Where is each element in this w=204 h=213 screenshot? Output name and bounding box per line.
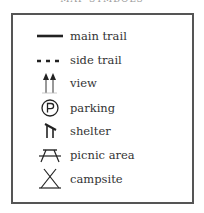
legend-item-main-trail: main trail — [13, 25, 192, 47]
legend-label: shelter — [70, 120, 111, 142]
parking-icon — [35, 97, 65, 119]
map-legend: main trail side trail view parking — [11, 13, 194, 204]
main-trail-icon — [35, 25, 65, 47]
legend-label: main trail — [70, 25, 127, 47]
legend-item-picnic-area: picnic area — [13, 144, 192, 166]
shelter-icon — [35, 120, 65, 142]
view-icon — [35, 72, 65, 94]
legend-item-shelter: shelter — [13, 120, 192, 142]
legend-label: campsite — [70, 168, 123, 190]
legend-label: picnic area — [70, 144, 135, 166]
legend-item-side-trail: side trail — [13, 49, 192, 71]
side-trail-icon — [35, 49, 65, 71]
legend-title: MAP SYMBOLS — [0, 0, 204, 4]
legend-item-campsite: campsite — [13, 168, 192, 190]
legend-label: view — [70, 72, 97, 94]
picnic-area-icon — [35, 144, 65, 166]
legend-item-view: view — [13, 72, 192, 94]
legend-label: side trail — [70, 49, 122, 71]
legend-item-parking: parking — [13, 97, 192, 119]
legend-label: parking — [70, 97, 115, 119]
campsite-icon — [35, 168, 65, 190]
